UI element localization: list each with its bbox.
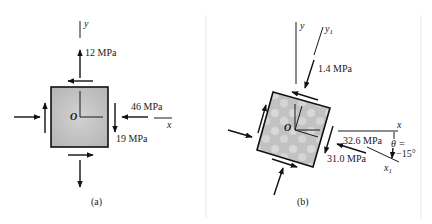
arrow-sigma-y1-top [305,60,314,88]
sigma-x1-label: 32.6 MPa [343,135,382,146]
x1-axis-label: x1 [383,162,392,175]
caption-b: (b) [297,196,309,208]
y1-axis-label: y1 [324,23,333,36]
x-axis-label: x [166,119,172,130]
arrow-sigma-x1-left [228,130,252,137]
panel-b: O y y1 1.4 MPa 32.6 MPa 31.0 MPa x x1 θ … [228,20,416,208]
x1-axis-line [367,147,399,162]
arrow-shear-right [325,126,333,153]
sigma-x-label: 46 MPa [131,101,163,112]
origin-label: O [70,111,77,122]
x-axis-label: x [396,119,402,130]
y-axis-label: y [83,18,89,29]
sigma-y-label: 12 MPa [85,47,117,58]
caption-a: (a) [91,196,102,208]
panel-a: O y x 12 MPa 46 MPa 19 MPa (a) [14,18,172,208]
angle-label-value: −15° [396,148,416,159]
origin-label: O [284,122,291,133]
y-axis-label: y [299,20,305,31]
stress-element-figure: O y x 12 MPa 46 MPa 19 MPa (a) O y [0,0,432,224]
y1-axis-line [314,27,323,55]
angle-arrow [392,148,393,158]
arrow-sigma-y1-bottom [274,168,283,195]
tau-x1y1-label: 31.0 MPa [327,153,366,164]
sigma-y1-label: 1.4 MPa [318,63,352,74]
tau-xy-label: 19 MPa [116,133,148,144]
